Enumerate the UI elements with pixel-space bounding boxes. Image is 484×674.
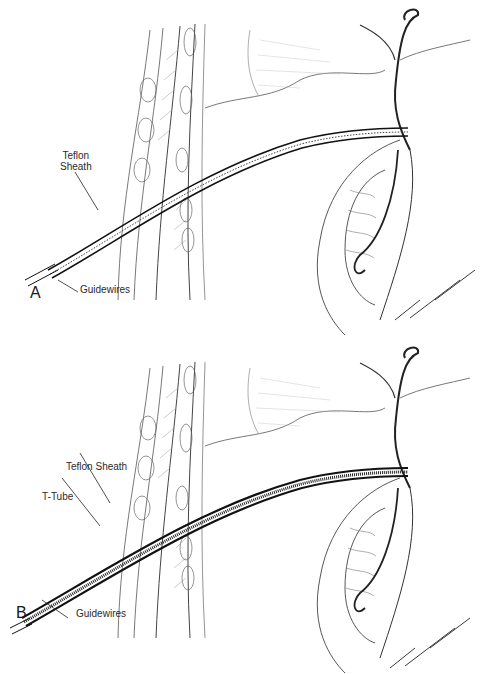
guidewires-label-a: Guidewires bbox=[80, 284, 130, 295]
teflon-sheath-label-a: Teflon Sheath bbox=[60, 150, 92, 172]
panel-letter-a: A bbox=[30, 284, 41, 302]
panel-letter-b: B bbox=[16, 604, 27, 622]
t-tube-label: T-Tube bbox=[42, 491, 73, 502]
panel-b-anatomy bbox=[10, 348, 470, 673]
teflon-sheath-label-b: Teflon Sheath bbox=[66, 461, 127, 472]
label-line: Sheath bbox=[60, 161, 92, 172]
guidewires-label-b: Guidewires bbox=[76, 608, 126, 619]
label-line: Teflon bbox=[60, 150, 92, 161]
illustration bbox=[0, 0, 484, 674]
